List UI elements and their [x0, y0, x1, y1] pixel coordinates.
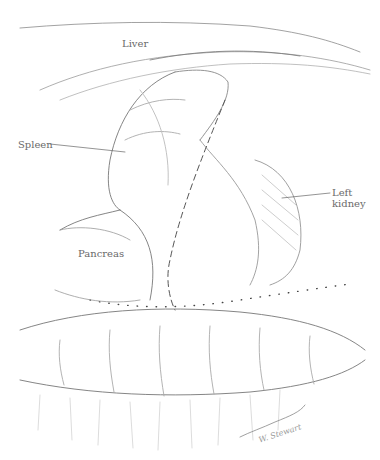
- transverse-colon: [20, 309, 365, 396]
- pancreas-outline: [55, 228, 140, 302]
- colon-loop: [60, 140, 259, 300]
- spleen-outline: [108, 70, 228, 210]
- dotted-line: [90, 284, 350, 307]
- label-left-kidney-line1: Left: [332, 187, 366, 198]
- label-pancreas: Pancreas: [78, 248, 124, 259]
- anatomical-illustration: Liver Spleen Left kidney Pancreas W. Ste…: [0, 0, 380, 460]
- label-left-kidney-line2: kidney: [332, 198, 366, 209]
- incision-line: [168, 100, 225, 310]
- kidney-leader-line: [282, 193, 330, 198]
- liver-outline: [20, 22, 370, 100]
- anatomy-drawing: [0, 0, 380, 460]
- label-spleen: Spleen: [18, 139, 53, 150]
- omentum-fringe: [38, 390, 280, 450]
- label-liver: Liver: [122, 38, 148, 49]
- label-left-kidney: Left kidney: [332, 187, 366, 209]
- left-kidney-outline: [255, 160, 301, 285]
